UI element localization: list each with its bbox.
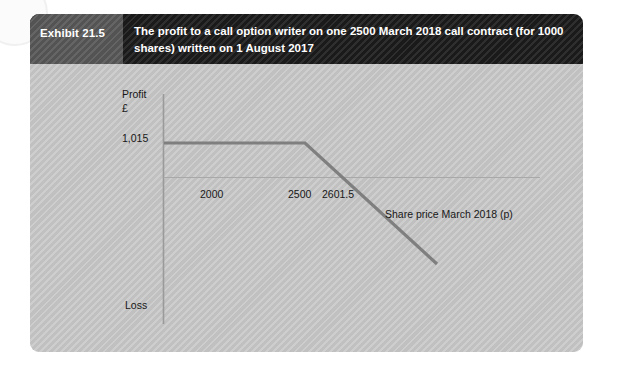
payoff-line bbox=[164, 143, 437, 264]
exhibit-header: Exhibit 21.5 The profit to a call option… bbox=[30, 14, 583, 64]
payoff-chart: Profit £ 1,015 Loss 2000 2500 2601.5 Sha… bbox=[30, 64, 583, 352]
exhibit-number-texture-overlay bbox=[30, 14, 123, 64]
y-tick-label-1015: 1,015 bbox=[122, 132, 148, 144]
y-axis-loss-label: Loss bbox=[125, 299, 147, 311]
y-axis-currency-label: £ bbox=[122, 102, 128, 114]
x-tick-label-2601-5: 2601.5 bbox=[322, 188, 354, 200]
x-axis-title: Share price March 2018 (p) bbox=[385, 208, 513, 220]
exhibit-panel: Exhibit 21.5 The profit to a call option… bbox=[30, 14, 583, 352]
x-tick-label-2500: 2500 bbox=[288, 188, 311, 200]
exhibit-number-label: Exhibit 21.5 bbox=[40, 27, 105, 39]
exhibit-number-block bbox=[30, 14, 123, 64]
y-axis-title-profit: Profit bbox=[122, 88, 147, 100]
x-tick-label-2000: 2000 bbox=[200, 188, 223, 200]
exhibit-title: The profit to a call option writer on on… bbox=[134, 23, 564, 56]
